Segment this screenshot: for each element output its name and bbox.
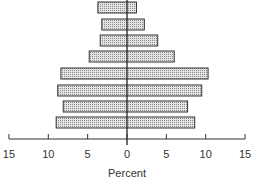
bar-row-6 [58, 85, 202, 96]
bar-row-4 [89, 51, 174, 62]
x-tick-label: 5 [163, 148, 169, 160]
x-tick-label: 5 [85, 148, 91, 160]
x-tick-label: 10 [42, 148, 54, 160]
x-tick-label: 10 [200, 148, 212, 160]
bar-row-7 [63, 101, 187, 112]
x-tick-label: 15 [239, 148, 251, 160]
population-pyramid-chart: 15105051015 Percent [0, 0, 253, 182]
bar-row-8 [56, 117, 195, 128]
x-tick-label: 0 [124, 148, 130, 160]
bar-row-2 [102, 19, 144, 30]
x-axis-label: Percent [108, 167, 146, 179]
bars-group [56, 2, 208, 128]
bar-row-5 [61, 68, 208, 79]
bar-row-1 [98, 2, 137, 13]
bar-row-3 [100, 35, 157, 46]
x-tick-label: 15 [3, 148, 15, 160]
x-axis-ticks: 15105051015 [3, 134, 251, 160]
